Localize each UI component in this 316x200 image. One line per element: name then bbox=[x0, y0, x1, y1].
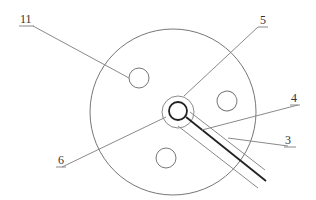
center-inner-ring bbox=[169, 102, 187, 120]
label-11: 11 bbox=[20, 12, 32, 26]
leader-3 bbox=[228, 138, 288, 146]
label-6: 6 bbox=[58, 153, 64, 167]
tube-lower-wall bbox=[178, 126, 258, 188]
hole-bottom bbox=[156, 148, 176, 168]
leader-5 bbox=[184, 27, 258, 96]
outer-disc bbox=[90, 29, 256, 195]
hole-right bbox=[215, 89, 238, 112]
leader-4 bbox=[202, 105, 298, 130]
diagram-canvas: 11 5 4 3 6 bbox=[0, 0, 316, 200]
tube-core bbox=[186, 117, 266, 181]
label-5: 5 bbox=[260, 13, 266, 27]
leader-6 bbox=[62, 117, 166, 167]
hole-top-left bbox=[129, 68, 149, 88]
center-outer-ring bbox=[162, 96, 194, 128]
leader-11 bbox=[33, 26, 129, 78]
label-4: 4 bbox=[291, 91, 297, 105]
label-3: 3 bbox=[285, 133, 291, 147]
